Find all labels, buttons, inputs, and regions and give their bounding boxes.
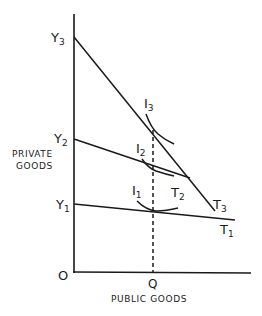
label-t2: T2 <box>170 185 185 202</box>
x-axis-label: PUBLIC GOODS <box>111 294 187 304</box>
indifference-curve-i1 <box>137 201 178 211</box>
label-i1: I1 <box>132 183 142 200</box>
label-t3: T3 <box>212 197 227 214</box>
indifference-curve-i3 <box>146 114 174 144</box>
public-private-goods-diagram: Y3 Y2 Y1 PRIVATE GOODS O Q PUBLIC GOODS … <box>0 0 262 316</box>
q-label: Q <box>148 277 157 291</box>
label-t1: T1 <box>219 222 234 239</box>
label-y1: Y1 <box>55 197 70 214</box>
origin-label: O <box>58 268 68 283</box>
label-y3: Y3 <box>50 30 65 47</box>
transformation-line-t3 <box>74 37 215 211</box>
y-axis-label-line1: PRIVATE <box>12 149 53 159</box>
y-axis-label-line2: GOODS <box>16 161 53 171</box>
x-axis <box>73 272 251 273</box>
label-i3: I3 <box>144 96 154 113</box>
label-y2: Y2 <box>53 131 68 148</box>
label-i2: I2 <box>136 141 146 158</box>
